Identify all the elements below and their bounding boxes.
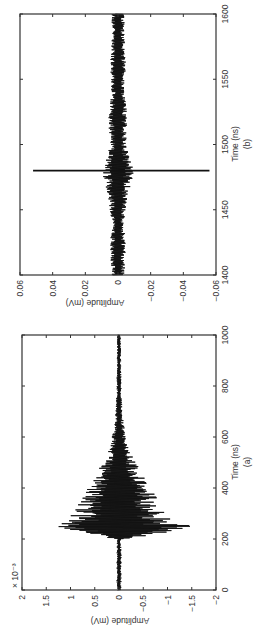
time-tick-label: 800 xyxy=(220,379,230,393)
time-tick-label: 1550 xyxy=(220,70,230,89)
chart-a-ylabel: Amplitude (mV) xyxy=(91,616,150,626)
time-tick-label: 1500 xyxy=(220,135,230,154)
amplitude-tick-label: −0.04 xyxy=(178,280,188,302)
amplitude-tick-label: 2 xyxy=(17,595,27,600)
chart-a-signal-trace xyxy=(59,335,190,590)
rotated-figure: 0.060.040.020−0.02−0.04−0.06 14001450150… xyxy=(0,0,272,643)
amplitude-tick-label: 0 xyxy=(113,280,123,285)
amplitude-tick-label: 0.04 xyxy=(48,280,58,297)
time-tick-label: 1450 xyxy=(220,200,230,219)
amplitude-tick-label: −1 xyxy=(163,595,173,605)
amplitude-tick-label: 1 xyxy=(66,595,76,600)
chart-a-caption: (a) xyxy=(242,457,252,468)
chart-b-caption: (b) xyxy=(242,139,252,150)
time-tick-label: 0 xyxy=(220,587,230,592)
chart-b: 0.060.040.020−0.02−0.04−0.06 14001450150… xyxy=(15,4,252,308)
time-tick-label: 1600 xyxy=(220,4,230,23)
amplitude-tick-label: −0.02 xyxy=(146,280,156,302)
signal-line xyxy=(103,14,133,275)
time-tick-label: 1400 xyxy=(220,265,230,284)
amplitude-tick-label: 0.02 xyxy=(80,280,90,297)
amplitude-tick-label: 0.06 xyxy=(15,280,25,297)
time-tick-label: 600 xyxy=(220,430,230,444)
time-tick-label: 200 xyxy=(220,532,230,546)
amplitude-tick-label: 0.5 xyxy=(90,595,100,607)
time-tick-label: 400 xyxy=(220,481,230,495)
signal-line xyxy=(59,335,190,590)
chart-a-scale-factor: × 10⁻³ xyxy=(10,563,20,588)
time-tick-label: 1000 xyxy=(220,325,230,344)
amplitude-tick-label: 1.5 xyxy=(41,595,51,607)
chart-a: 21.510.50−0.5−1−1.5−2 02004006008001000 … xyxy=(10,325,252,626)
chart-b-signal-trace xyxy=(33,14,209,275)
chart-b-xlabel: Time (ns) xyxy=(230,126,240,162)
amplitude-tick-label: 0 xyxy=(114,595,124,600)
amplitude-tick-label: −1.5 xyxy=(187,595,197,612)
amplitude-tick-label: −2 xyxy=(211,595,221,605)
chart-b-ylabel: Amplitude (mV) xyxy=(66,298,125,308)
chart-b-time-ticks: 14001450150015501600 xyxy=(20,4,230,284)
amplitude-tick-label: −0.5 xyxy=(138,595,148,612)
chart-a-xlabel: Time (ns) xyxy=(230,444,240,480)
